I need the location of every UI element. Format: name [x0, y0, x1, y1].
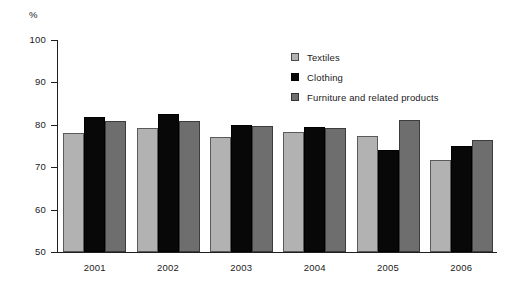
y-axis-tick	[51, 125, 57, 126]
legend-swatch-icon	[291, 53, 299, 61]
bar	[451, 146, 472, 252]
x-axis-tick-label: 2004	[275, 262, 355, 273]
y-axis-tick-label: 90	[16, 76, 46, 87]
bar	[63, 133, 84, 252]
bar-chart: % 5060708090100 200120022003200420052006…	[0, 0, 522, 292]
y-axis-tick	[51, 40, 57, 41]
bar	[399, 120, 420, 252]
y-axis-tick-label: 80	[16, 119, 46, 130]
legend-label: Furniture and related products	[307, 92, 439, 103]
bar	[158, 114, 179, 252]
bar	[472, 140, 493, 252]
bar	[84, 117, 105, 252]
bar	[210, 137, 231, 252]
bar	[283, 132, 304, 252]
bar	[304, 127, 325, 252]
legend-item: Furniture and related products	[291, 87, 439, 107]
x-axis-tick-label: 2001	[55, 262, 135, 273]
bar	[179, 121, 200, 252]
bar	[325, 128, 346, 252]
legend-item: Textiles	[291, 47, 439, 67]
y-axis-tick	[51, 82, 57, 83]
legend-label: Clothing	[307, 72, 343, 83]
bar	[430, 160, 451, 252]
bar	[252, 126, 273, 252]
bar	[105, 121, 126, 252]
y-axis-tick-label: 70	[16, 161, 46, 172]
x-axis-tick-label: 2005	[348, 262, 428, 273]
bar	[378, 150, 399, 252]
legend-swatch-icon	[291, 73, 299, 81]
x-axis-tick-label: 2003	[201, 262, 281, 273]
y-axis-tick-label: 100	[16, 34, 46, 45]
legend-label: Textiles	[307, 52, 340, 63]
bar	[137, 128, 158, 252]
y-axis-tick	[51, 252, 57, 253]
y-axis-tick-label: 60	[16, 204, 46, 215]
chart-legend: TextilesClothingFurniture and related pr…	[291, 47, 439, 107]
y-axis-line	[57, 40, 58, 253]
x-axis-tick-label: 2002	[128, 262, 208, 273]
legend-swatch-icon	[291, 93, 299, 101]
x-axis-tick-label: 2006	[421, 262, 501, 273]
legend-item: Clothing	[291, 67, 439, 87]
bar	[231, 125, 252, 252]
y-axis-tick-label: 50	[16, 246, 46, 257]
y-axis-tick	[51, 210, 57, 211]
bar	[357, 136, 378, 252]
x-axis-line	[57, 252, 497, 253]
y-axis-unit-label: %	[29, 9, 38, 20]
y-axis-tick	[51, 167, 57, 168]
